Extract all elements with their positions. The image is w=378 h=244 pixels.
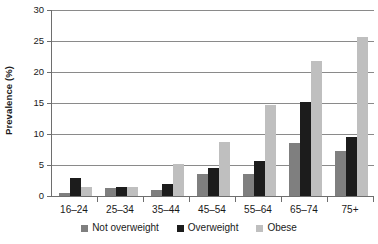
bar: [265, 105, 276, 196]
y-tick-label: 10: [18, 129, 44, 139]
x-tick-mark: [189, 197, 190, 202]
bar: [81, 187, 92, 196]
bar-group: [144, 10, 190, 196]
x-tick-label: 35–44: [152, 204, 180, 215]
x-tick-mark: [97, 197, 98, 202]
bar: [162, 184, 173, 196]
x-tick-mark: [373, 197, 374, 202]
bar-group: [190, 10, 236, 196]
bar: [105, 188, 116, 196]
legend-label: Overweight: [188, 223, 239, 233]
bar-group: [328, 10, 374, 196]
x-tick-label: 45–54: [198, 204, 226, 215]
bar: [311, 61, 322, 196]
y-tick-label: 25: [18, 36, 44, 46]
y-tick-label: 30: [18, 5, 44, 15]
bar: [219, 142, 230, 196]
legend-swatch-icon: [256, 225, 263, 232]
legend-label: Obese: [267, 223, 296, 233]
x-tick-mark: [281, 197, 282, 202]
x-tick-label: 25–34: [106, 204, 134, 215]
bar-chart: Prevalence (%) 051015202530 16–2425–3435…: [0, 0, 378, 244]
bar: [70, 178, 81, 196]
plot-area: [51, 10, 374, 197]
bar: [173, 164, 184, 196]
y-axis-title: Prevalence (%): [0, 0, 16, 200]
x-tick-mark: [143, 197, 144, 202]
legend-swatch-icon: [177, 225, 184, 232]
bar-group: [282, 10, 328, 196]
legend-swatch-icon: [81, 225, 88, 232]
x-tick-label: 16–24: [60, 204, 88, 215]
bar: [300, 102, 311, 196]
x-tick-label: 55–64: [244, 204, 272, 215]
y-axis-title-label: Prevalence (%): [3, 66, 14, 135]
bar-group: [98, 10, 144, 196]
x-tick-mark: [235, 197, 236, 202]
bar: [346, 137, 357, 196]
bar: [116, 187, 127, 196]
legend-label: Not overweight: [92, 223, 159, 233]
x-tick-label: 75+: [342, 204, 359, 215]
bar: [254, 161, 265, 196]
bar: [335, 151, 346, 196]
bar-group: [236, 10, 282, 196]
x-tick-mark: [327, 197, 328, 202]
bar: [208, 168, 219, 196]
bar-group: [52, 10, 98, 196]
y-tick-label: 5: [18, 160, 44, 170]
y-tick-label: 0: [18, 191, 44, 201]
legend-item[interactable]: Overweight: [177, 223, 239, 233]
x-tick-label: 65–74: [290, 204, 318, 215]
bar: [289, 143, 300, 196]
y-tick-label: 15: [18, 98, 44, 108]
y-tick-label: 20: [18, 67, 44, 77]
bar: [357, 37, 368, 196]
bar: [59, 193, 70, 196]
legend: Not overweightOverweightObese: [0, 223, 378, 233]
bar: [197, 174, 208, 196]
bars-layer: [52, 10, 374, 196]
legend-item[interactable]: Obese: [256, 223, 296, 233]
legend-item[interactable]: Not overweight: [81, 223, 159, 233]
bar: [127, 187, 138, 196]
bar: [151, 190, 162, 196]
bar: [243, 174, 254, 196]
